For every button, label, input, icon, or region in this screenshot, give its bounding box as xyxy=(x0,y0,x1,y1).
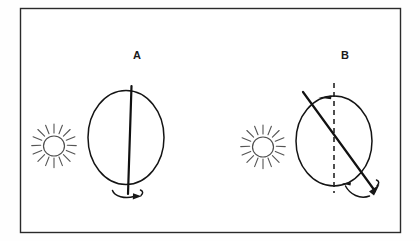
axial-tilt-diagram: A xyxy=(0,0,420,241)
figure-root: A xyxy=(0,0,420,241)
diagram-frame xyxy=(21,9,401,233)
panel-a-label: A xyxy=(133,49,141,61)
panel-b-label: B xyxy=(341,49,349,61)
